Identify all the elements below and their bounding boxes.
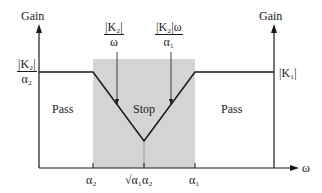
annotation-left-denominator: ω: [110, 35, 118, 48]
tick-label-alpha1: α₁: [189, 174, 199, 186]
x-axis-label: ω: [302, 162, 310, 174]
tick-label-center: √α₁α₂: [125, 174, 153, 186]
region-stop: Stop: [133, 103, 155, 115]
annotation-left-numerator: |K₂|: [104, 21, 124, 35]
left-level-numerator: |K₂|: [17, 58, 37, 72]
right-level-label: |K₁|: [279, 67, 297, 79]
left-axis-arrow-icon: [36, 24, 42, 33]
x-axis-arrow-icon: [290, 165, 299, 171]
annotation-left: |K₂| ω: [104, 21, 124, 48]
right-axis-title: Gain: [259, 10, 282, 22]
tick-label-alpha2: α₂: [86, 174, 96, 186]
annotation-right: |K₂|ω α₁: [155, 21, 183, 48]
left-level-label: |K₂| α₂: [17, 58, 37, 85]
region-pass-right: Pass: [221, 103, 242, 115]
annotation-right-numerator: |K₂|ω: [155, 21, 183, 35]
annotation-right-denominator: α₁: [164, 35, 174, 48]
left-axis-title: Gain: [21, 10, 44, 22]
right-axis-arrow-icon: [271, 24, 277, 33]
region-pass-left: Pass: [52, 103, 73, 115]
left-level-denominator: α₂: [22, 72, 32, 85]
